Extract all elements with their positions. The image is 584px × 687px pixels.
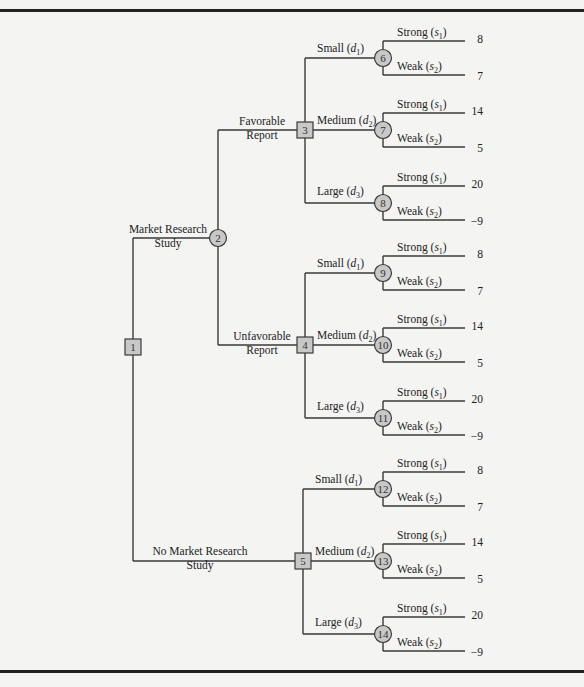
diagram-canvas: Market ResearchStudyNo Market ResearchSt… (0, 0, 584, 687)
weak-label: Weak (s2) (397, 563, 442, 578)
medium-label: Medium (d2) (315, 545, 374, 560)
payoff-strong: 8 (477, 464, 483, 476)
node-label: 4 (302, 339, 308, 351)
node-label: 14 (378, 628, 390, 640)
unfavorable-label-line2: Report (246, 344, 278, 357)
large-label: Large (d3) (315, 616, 362, 631)
weak-label: Weak (s2) (397, 636, 442, 651)
small-label: Small (d1) (317, 42, 364, 57)
weak-label: Weak (s2) (397, 60, 442, 75)
weak-label: Weak (s2) (397, 132, 442, 147)
no-research-label-line1: No Market Research (152, 545, 247, 557)
node-label: 11 (378, 412, 389, 424)
strong-label: Strong (s1) (397, 386, 447, 401)
payoff-weak: 7 (477, 70, 483, 82)
payoff-weak: −9 (471, 430, 483, 442)
node-label: 8 (380, 197, 386, 209)
medium-label: Medium (d2) (317, 329, 376, 344)
strong-label: Strong (s1) (397, 241, 447, 256)
strong-label: Strong (s1) (397, 98, 447, 113)
decision-tree: Market ResearchStudyNo Market ResearchSt… (0, 0, 584, 687)
node-label: 3 (302, 124, 308, 136)
payoff-weak: 5 (477, 573, 483, 585)
large-label: Large (d3) (317, 185, 364, 200)
node-label: 6 (380, 52, 386, 64)
node-label: 12 (378, 483, 389, 495)
node-label: 9 (380, 267, 386, 279)
favorable-label-line1: Favorable (239, 115, 285, 127)
weak-label: Weak (s2) (397, 420, 442, 435)
medium-label: Medium (d2) (317, 114, 376, 129)
weak-label: Weak (s2) (397, 347, 442, 362)
favorable-label-line2: Report (246, 129, 278, 142)
node-label: 2 (215, 232, 221, 244)
payoff-weak: 5 (477, 142, 483, 154)
strong-label: Strong (s1) (397, 602, 447, 617)
payoff-weak: 7 (477, 501, 483, 513)
payoff-strong: 20 (472, 609, 484, 621)
payoff-strong: 14 (472, 536, 484, 548)
payoff-weak: 7 (477, 285, 483, 297)
weak-label: Weak (s2) (397, 275, 442, 290)
node-label: 10 (378, 339, 390, 351)
node-label: 7 (380, 124, 386, 136)
strong-label: Strong (s1) (397, 171, 447, 186)
small-label: Small (d1) (315, 473, 362, 488)
node-label: 1 (130, 341, 136, 353)
weak-label: Weak (s2) (397, 205, 442, 220)
large-label: Large (d3) (317, 400, 364, 415)
strong-label: Strong (s1) (397, 26, 447, 41)
node-label: 5 (300, 555, 306, 567)
strong-label: Strong (s1) (397, 313, 447, 328)
no-research-label-line2: Study (187, 559, 214, 572)
payoff-strong: 14 (472, 105, 484, 117)
payoff-strong: 8 (477, 248, 483, 260)
payoff-weak: −9 (471, 646, 483, 658)
payoff-weak: −9 (471, 215, 483, 227)
payoff-strong: 20 (472, 393, 484, 405)
strong-label: Strong (s1) (397, 457, 447, 472)
research-label-line2: Study (155, 237, 182, 250)
strong-label: Strong (s1) (397, 529, 447, 544)
research-label-line1: Market Research (129, 223, 207, 235)
unfavorable-label-line1: Unfavorable (233, 330, 290, 342)
node-label: 13 (378, 555, 390, 567)
payoff-weak: 5 (477, 357, 483, 369)
small-label: Small (d1) (317, 257, 364, 272)
weak-label: Weak (s2) (397, 491, 442, 506)
payoff-strong: 14 (472, 320, 484, 332)
payoff-strong: 20 (472, 178, 484, 190)
payoff-strong: 8 (477, 33, 483, 45)
